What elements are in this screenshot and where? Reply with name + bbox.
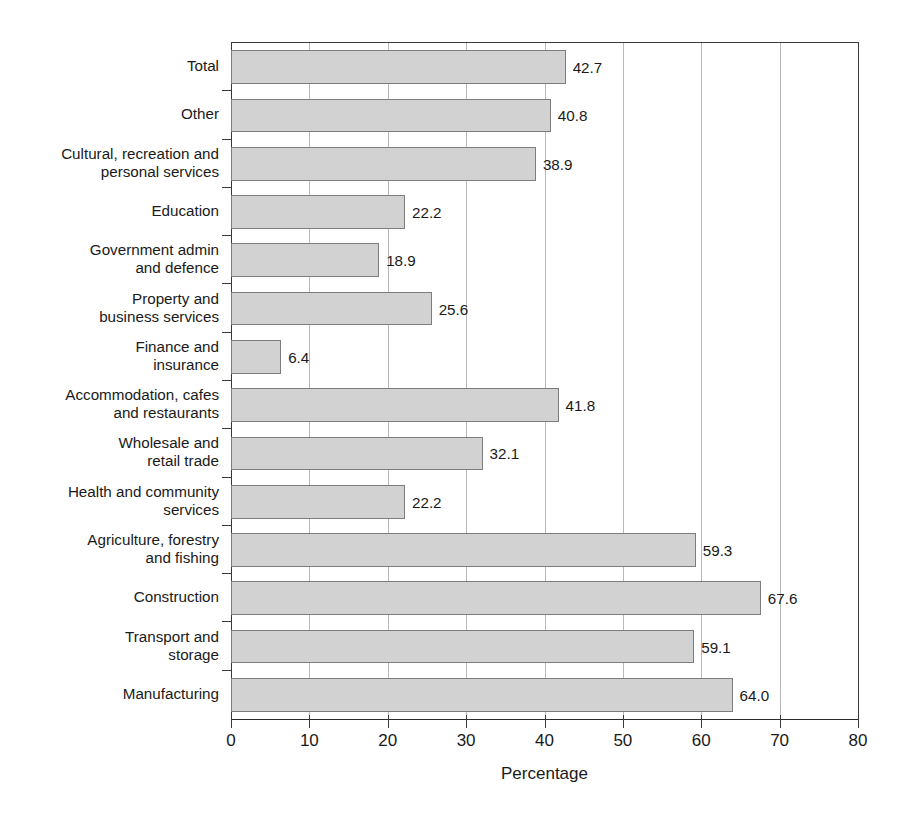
category-label: Total: [0, 57, 225, 75]
y-axis-tick: [222, 139, 231, 140]
gridline-10: [309, 43, 310, 719]
bar: [231, 243, 379, 277]
category-label: Education: [0, 202, 225, 220]
bar-value-label: 64.0: [740, 688, 770, 703]
x-axis-tick-label: 40: [535, 732, 554, 749]
gridline-30: [466, 43, 467, 719]
y-axis-tick: [222, 525, 231, 526]
bar-chart-figure: TotalOtherCultural, recreation and perso…: [0, 0, 903, 814]
x-axis-tick-label: 20: [378, 732, 397, 749]
bar-value-label: 40.8: [558, 108, 588, 123]
bar-value-label: 32.1: [490, 446, 520, 461]
x-axis-tick-label: 50: [613, 732, 632, 749]
x-axis-tick-label: 80: [849, 732, 868, 749]
category-label-column: TotalOtherCultural, recreation and perso…: [0, 42, 225, 718]
y-axis-tick: [222, 332, 231, 333]
bar-value-label: 67.6: [768, 591, 798, 606]
x-axis-tick-label: 10: [300, 732, 319, 749]
page-bleed-text: [0, 0, 903, 4]
x-axis-tick-label: 0: [226, 732, 235, 749]
category-label: Cultural, recreation and personal servic…: [0, 145, 225, 181]
x-axis-tick-30: [466, 715, 467, 728]
bar-value-label: 22.2: [412, 495, 442, 510]
y-axis-tick: [222, 283, 231, 284]
gridline-50: [623, 43, 624, 719]
bar-value-label: 59.1: [701, 640, 731, 655]
bar: [231, 147, 536, 181]
bar: [231, 195, 405, 229]
y-axis-tick: [222, 428, 231, 429]
x-axis-tick-70: [780, 715, 781, 728]
category-label: Construction: [0, 588, 225, 606]
x-axis-tick-60: [701, 715, 702, 728]
y-axis-tick: [222, 187, 231, 188]
y-axis-tick: [222, 670, 231, 671]
bar: [231, 485, 405, 519]
x-axis-tick-label: 70: [770, 732, 789, 749]
category-label: Agriculture, forestry and fishing: [0, 531, 225, 567]
y-axis-tick: [222, 235, 231, 236]
bar-value-label: 59.3: [703, 543, 733, 558]
category-label: Property and business services: [0, 290, 225, 326]
category-label: Wholesale and retail trade: [0, 434, 225, 470]
bar: [231, 678, 733, 712]
y-axis-tick: [222, 621, 231, 622]
bar-value-label: 25.6: [439, 302, 469, 317]
y-axis-tick: [222, 573, 231, 574]
x-axis-tick-10: [309, 715, 310, 728]
category-label: Accommodation, cafes and restaurants: [0, 386, 225, 422]
category-label: Transport and storage: [0, 628, 225, 664]
x-axis-tick-label: 60: [692, 732, 711, 749]
gridline-60: [701, 43, 702, 719]
x-axis-tick-50: [623, 715, 624, 728]
bar: [231, 630, 694, 664]
category-label: Finance and insurance: [0, 338, 225, 374]
y-axis-tick: [222, 380, 231, 381]
bar-value-label: 18.9: [386, 253, 416, 268]
bar: [231, 581, 761, 615]
category-label: Health and community services: [0, 483, 225, 519]
bar-value-label: 42.7: [573, 60, 603, 75]
bar: [231, 50, 566, 84]
gridline-40: [545, 43, 546, 719]
gridline-20: [388, 43, 389, 719]
bar: [231, 292, 432, 326]
bar-value-label: 22.2: [412, 205, 442, 220]
category-label: Manufacturing: [0, 685, 225, 703]
category-label: Government admin and defence: [0, 241, 225, 277]
bar-value-label: 6.4: [288, 350, 309, 365]
x-axis-tick-20: [388, 715, 389, 728]
bar: [231, 340, 281, 374]
x-axis-tick-40: [545, 715, 546, 728]
x-axis-tick-80: [858, 715, 859, 728]
bar-value-label: 38.9: [543, 157, 573, 172]
bar-value-label: 41.8: [566, 398, 596, 413]
x-axis-tick-0: [231, 715, 232, 728]
bar: [231, 437, 483, 471]
bar: [231, 388, 559, 422]
x-axis-tick-label: 30: [457, 732, 476, 749]
x-axis-title: Percentage: [231, 764, 858, 784]
y-axis-tick: [222, 90, 231, 91]
gridline-70: [780, 43, 781, 719]
bar: [231, 533, 696, 567]
plot-area: 42.740.838.922.218.925.66.441.832.122.25…: [231, 42, 859, 720]
x-axis: Percentage 01020304050607080: [231, 719, 858, 789]
y-axis-tick: [222, 477, 231, 478]
category-label: Other: [0, 105, 225, 123]
bar: [231, 99, 551, 133]
